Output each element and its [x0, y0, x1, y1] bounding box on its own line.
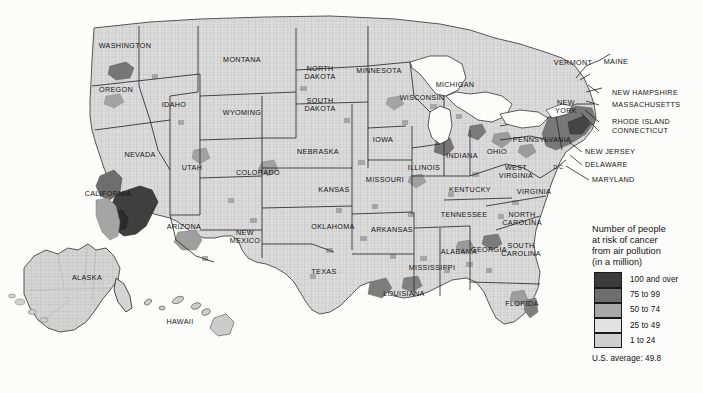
legend-title: Number of people at risk of cancer from … [592, 224, 700, 268]
leader-line-maryland [566, 166, 589, 180]
region-phoenix-50 [174, 230, 202, 250]
lower-48-states [90, 16, 596, 324]
legend-row: 50 to 74 [594, 302, 678, 317]
legend-class-label: 75 to 99 [630, 290, 660, 299]
legend-class-label: 1 to 24 [630, 336, 655, 345]
legend-swatch [594, 303, 622, 318]
legend-row: 75 to 99 [594, 287, 678, 302]
legend-swatch [594, 288, 622, 303]
legend-class-label: 50 to 74 [630, 305, 660, 314]
legend-class-label: 100 and over [630, 275, 678, 284]
leader-line-delaware [570, 155, 582, 165]
legend-row: 25 to 49 [594, 318, 678, 333]
legend-swatch [594, 272, 622, 287]
legend-class-label: 25 to 49 [630, 321, 660, 330]
legend-average: U.S. average: 49.8 [592, 354, 661, 363]
region-miami-75 [524, 298, 538, 318]
legend-rows: 100 and over75 to 9950 to 7425 to 491 to… [594, 272, 678, 348]
alaska-inset [9, 244, 133, 332]
legend-swatch [594, 318, 622, 333]
map-page: WASHINGTONOREGONIDAHOMONTANAWYOMINGNEVAD… [0, 0, 703, 393]
map-legend: Number of people at risk of cancer from … [592, 224, 700, 268]
legend-swatch [594, 333, 622, 348]
legend-row: 1 to 24 [594, 333, 678, 348]
legend-row: 100 and over [594, 272, 678, 287]
hawaii-inset [143, 295, 234, 336]
county-texture [90, 16, 596, 324]
